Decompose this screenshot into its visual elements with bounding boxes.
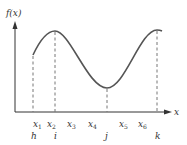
tick-x6: x6 (138, 119, 147, 130)
point-label-j: j (103, 131, 108, 141)
y-axis-arrow-icon (13, 21, 18, 29)
tick-x5: x5 (119, 119, 128, 130)
function-curve (33, 30, 162, 88)
x-axis-label: x (174, 107, 179, 117)
tick-x3: x3 (67, 119, 76, 130)
point-labels: h i j k (31, 131, 160, 141)
function-graph: f(x) x x1 x2 x3 x4 x5 x6 h i j k (0, 0, 187, 145)
tick-x2: x2 (47, 119, 56, 130)
point-label-i: i (54, 131, 57, 141)
y-axis-label: f(x) (5, 8, 22, 18)
point-label-h: h (31, 131, 37, 141)
x-tick-labels: x1 x2 x3 x4 x5 x6 (33, 119, 147, 130)
tick-x1: x1 (33, 119, 42, 130)
tick-x4: x4 (88, 119, 97, 130)
x-axis-arrow-icon (164, 110, 172, 115)
point-label-k: k (155, 131, 160, 141)
